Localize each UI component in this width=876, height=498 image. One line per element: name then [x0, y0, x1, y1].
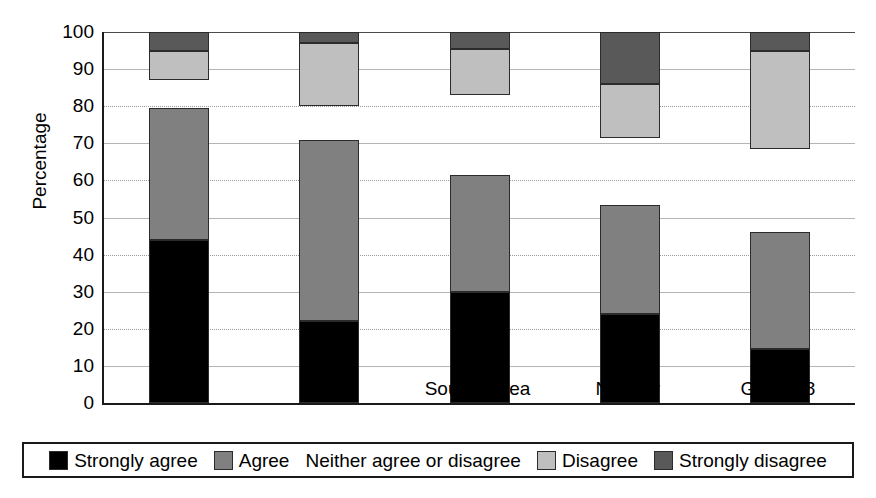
bar-segment	[750, 232, 810, 349]
bar-segment	[299, 140, 359, 322]
legend-swatch-icon	[49, 451, 68, 470]
bar-segment	[450, 95, 510, 175]
bar-stack	[600, 32, 660, 403]
legend-label: Strongly disagree	[679, 451, 827, 470]
y-tick-label: 100	[34, 22, 94, 41]
bar-stack	[149, 32, 209, 403]
legend-swatch-icon	[654, 451, 673, 470]
legend-label: Strongly agree	[74, 451, 198, 470]
legend-item: Disagree	[529, 451, 646, 470]
legend-swatch-icon	[214, 451, 233, 470]
legend-item: Neither agree or disagree	[297, 451, 528, 470]
legend-swatch-icon	[537, 451, 556, 470]
bar-segment	[149, 80, 209, 108]
legend-label: Neither agree or disagree	[305, 451, 520, 470]
y-tick-label: 60	[34, 170, 94, 189]
plot-area	[102, 32, 855, 405]
y-tick-label: 20	[34, 319, 94, 338]
bar-segment	[299, 32, 359, 43]
bar-segment	[149, 108, 209, 240]
bar-segment	[149, 32, 209, 51]
legend-label: Disagree	[562, 451, 638, 470]
x-tick-label: India	[97, 378, 257, 400]
bar-segment	[299, 106, 359, 139]
bar-segment	[450, 175, 510, 292]
bar-segment	[750, 51, 810, 149]
bar-segment	[600, 139, 660, 206]
bar-segment	[600, 205, 660, 314]
bar-segment	[450, 32, 510, 49]
y-tick-label: 70	[34, 133, 94, 152]
bar-stack	[450, 32, 510, 403]
chart-legend: Strongly agreeAgreeNeither agree or disa…	[22, 442, 854, 478]
bar-segment	[600, 32, 660, 84]
bar-stack	[750, 32, 810, 403]
x-tick-label: China	[247, 378, 407, 400]
bar-segment	[450, 49, 510, 95]
chart-container: Percentage 1009080706050403020100 IndiaC…	[0, 0, 876, 498]
y-axis-title: Percentage	[29, 61, 51, 261]
legend-item: Strongly disagree	[646, 451, 835, 470]
bar-segment	[299, 43, 359, 106]
bar-stack	[299, 32, 359, 403]
legend-item: Agree	[206, 451, 298, 470]
bar-segment	[600, 84, 660, 139]
bar-segment	[750, 32, 810, 51]
y-tick-label: 80	[34, 96, 94, 115]
x-tick-label: South Korea	[398, 378, 558, 400]
x-tick-label: GB 2008	[698, 378, 858, 400]
y-tick-label: 10	[34, 356, 94, 375]
y-tick-label: 50	[34, 208, 94, 227]
x-tick-label: Norway	[548, 378, 708, 400]
legend-label: Agree	[239, 451, 290, 470]
y-tick-label: 30	[34, 282, 94, 301]
y-tick-label: 90	[34, 59, 94, 78]
y-tick-label: 40	[34, 245, 94, 264]
bar-segment	[750, 149, 810, 232]
y-tick-label: 0	[34, 393, 94, 412]
legend-item: Strongly agree	[41, 451, 206, 470]
bar-segment	[149, 51, 209, 81]
